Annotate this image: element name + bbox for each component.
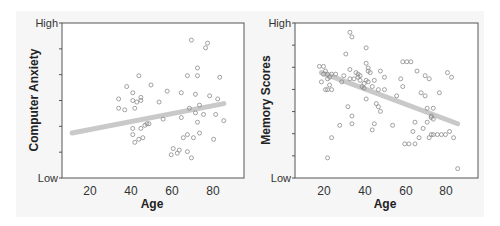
y-low-label: Low (38, 172, 58, 184)
y-axis-title: Computer Anxiety (27, 48, 41, 151)
x-tick-80: 80 (439, 184, 453, 198)
x-tick-40: 40 (358, 184, 372, 198)
y-high-label: High (268, 17, 291, 29)
y-low-label: Low (271, 172, 291, 184)
figure: High Low 20 40 60 80 Age Computer Anxiet… (0, 0, 500, 226)
chart-computer-anxiety: High Low 20 40 60 80 Age Computer Anxiet… (27, 17, 244, 211)
x-tick-60: 60 (165, 184, 179, 198)
y-axis-title: Memory Scores (259, 55, 273, 145)
x-tick-40: 40 (124, 184, 138, 198)
x-tick-80: 80 (206, 184, 220, 198)
chart-memory-scores: High Low 20 40 60 80 Age Memory Scores (259, 17, 478, 211)
plot-area (295, 23, 478, 178)
x-tick-20: 20 (317, 184, 331, 198)
x-tick-60: 60 (399, 184, 413, 198)
x-axis-title: Age (141, 197, 164, 211)
x-axis-title: Age (374, 197, 397, 211)
y-high-label: High (35, 17, 58, 29)
x-tick-20: 20 (83, 184, 97, 198)
